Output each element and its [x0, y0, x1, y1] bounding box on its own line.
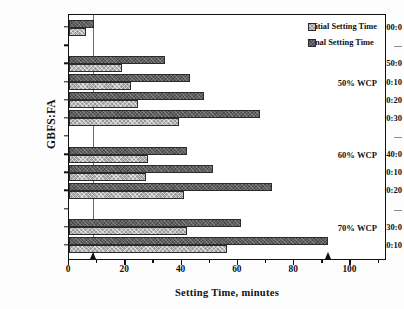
y-axis-title: GBFS:FA: [45, 64, 57, 184]
legend-swatch-initial-icon: [308, 23, 316, 31]
x-axis-tick-label: 100: [342, 264, 356, 274]
x-axis-tick-mark: [96, 260, 97, 263]
x-axis-tick-label: 0: [66, 264, 71, 274]
group-annotation-60-wcp: 60% WCP: [338, 150, 377, 160]
bar-final-setting-time: [69, 183, 272, 191]
x-axis-tick-mark: [152, 260, 153, 263]
bar-final-setting-time: [69, 20, 94, 28]
group-annotation-50-wcp: 50% WCP: [338, 78, 377, 88]
x-axis-tick-mark: [209, 260, 210, 263]
bar-final-setting-time: [69, 219, 241, 227]
plot-area: 50% WCP60% WCP70% WCP Initial Setting Ti…: [68, 14, 386, 260]
setting-time-bar-chart: GBFS:FA 100:0—50:040:1030:2020:30—40:030…: [0, 0, 404, 309]
bar-initial-setting-time: [69, 173, 146, 181]
bar-initial-setting-time: [69, 155, 148, 163]
bar-initial-setting-time: [69, 191, 184, 199]
legend: Initial Setting Time Final Setting Time: [304, 19, 382, 57]
bar-initial-setting-time: [69, 64, 122, 72]
bar-final-setting-time: [69, 74, 190, 82]
bar-final-setting-time: [69, 147, 187, 155]
bar-final-setting-time: [69, 237, 328, 245]
x-axis-tick-label: 20: [120, 264, 129, 274]
bar-final-setting-time: [69, 56, 165, 64]
x-axis-tick-mark: [321, 260, 322, 263]
x-axis-tick-mark: [378, 260, 379, 263]
legend-label-initial: Initial Setting Time: [308, 22, 378, 31]
bar-final-setting-time: [69, 165, 213, 173]
legend-label-final: Final Setting Time: [308, 38, 374, 47]
arrow-marker-icon: [90, 252, 96, 259]
bar-final-setting-time: [69, 92, 204, 100]
legend-swatch-final-icon: [308, 39, 316, 47]
x-axis-tick-label: 80: [288, 264, 297, 274]
legend-item-final: Final Setting Time: [308, 38, 378, 47]
legend-item-initial: Initial Setting Time: [308, 22, 378, 31]
x-axis-tick-label: 60: [232, 264, 241, 274]
bar-initial-setting-time: [69, 82, 131, 90]
bar-final-setting-time: [69, 110, 260, 118]
x-axis-tick-mark: [265, 260, 266, 263]
x-axis-tick-label: 40: [176, 264, 185, 274]
group-annotation-70-wcp: 70% WCP: [338, 223, 377, 233]
bar-initial-setting-time: [69, 100, 138, 108]
arrow-marker-icon: [325, 252, 331, 259]
x-axis-title: Setting Time, minutes: [68, 287, 386, 298]
bar-initial-setting-time: [69, 118, 179, 126]
bar-initial-setting-time: [69, 227, 187, 235]
bar-initial-setting-time: [69, 28, 86, 36]
